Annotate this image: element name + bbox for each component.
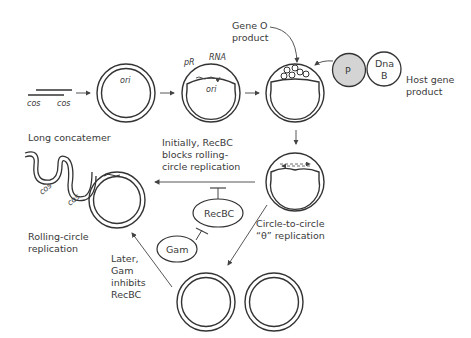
ori-label-2: ori [206,85,217,94]
p-arrow [315,61,333,65]
daughter-circle-1 [177,273,235,331]
recbc-inhibition: RecBC Gam [157,188,243,262]
gam-note-3: inhibits [111,277,146,288]
recbc-note-3: circle replication [162,161,240,172]
host-gene-label-1: Host gene [406,74,455,85]
p-label: P [345,65,351,76]
gene-o-label-1: Gene O [232,20,268,31]
linear-dna: cos cos [27,90,72,108]
gam-note-4: RecBC [111,289,142,300]
circular-dna-transcription: pR RNA ori [182,53,240,122]
gam-note-2: Gam [111,265,133,276]
ori-label: ori [120,76,131,85]
recbc-note-1: Initially, RecBC [162,137,233,148]
cos-label-left: cos [27,99,40,108]
host-gene-product: P Dna B Host gene product [315,52,455,97]
gene-o-label-2: product [232,32,269,43]
concatemer-label: Long concatemer [28,132,111,143]
recbc-note-2: blocks rolling- [162,149,228,160]
gene-o-arrow [270,27,297,62]
promoter-label: pR [183,58,195,67]
daughter-circle-2 [245,273,303,331]
theta-label-2: “θ” replication [256,230,325,241]
recbc-label: RecBC [204,208,235,219]
dnab-label-2: B [381,70,388,81]
recbc-block-note: Initially, RecBC blocks rolling- circle … [162,137,240,172]
rolling-circle-label-2: replication [28,243,78,254]
theta-replication-circle: Circle-to-circle “θ” replication [256,153,325,241]
rolling-circle-replication: Long concatemer cos cos Rolling-circle r… [25,132,145,254]
theta-label-1: Circle-to-circle [256,218,325,229]
cos-label-concat-2: cos [66,192,82,208]
dnab-label-1: Dna [375,58,394,69]
gam-label: Gam [166,244,188,255]
lambda-replication-diagram: cos cos ori pR RNA ori Gene O product P [0,0,471,338]
cos-label-right: cos [57,99,70,108]
rolling-circle-label-1: Rolling-circle [28,231,89,242]
rna-label: RNA [209,53,226,62]
circular-dna-ori: ori [97,64,155,122]
host-gene-label-2: product [406,86,443,97]
gam-note-1: Later, [111,253,139,264]
circular-dna-gene-o: Gene O product [232,20,324,122]
gam-note: Later, Gam inhibits RecBC [111,253,146,300]
